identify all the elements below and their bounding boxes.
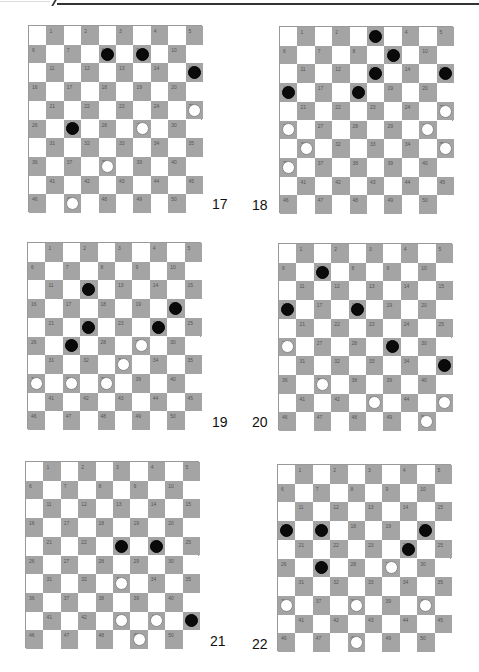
- square-number: 28: [102, 122, 108, 128]
- dark-square: 18: [96, 518, 113, 537]
- dark-square: 32: [81, 138, 98, 157]
- square-number: 6: [281, 486, 284, 492]
- light-square: [382, 615, 399, 634]
- square-number: 29: [387, 123, 393, 129]
- dark-square: 13: [115, 280, 132, 299]
- dark-square: 30: [417, 559, 434, 578]
- dark-square: 21: [296, 319, 313, 338]
- square-number: 14: [153, 282, 159, 288]
- light-square: [81, 45, 98, 64]
- square-number: 11: [298, 504, 303, 510]
- dark-square: 34: [402, 139, 419, 158]
- light-square: [436, 412, 453, 431]
- dark-square: 11: [296, 281, 313, 300]
- square-number: 48: [99, 632, 105, 638]
- dark-square: 20: [419, 83, 436, 102]
- light-square: [383, 244, 400, 263]
- dark-square: 30: [168, 120, 185, 139]
- black-piece: [315, 524, 328, 537]
- light-square: [186, 82, 203, 101]
- light-square: [418, 319, 435, 338]
- dark-square: 49: [133, 194, 150, 213]
- square-number: 18: [99, 520, 105, 526]
- dark-square: 48: [350, 195, 367, 214]
- dark-square: 43: [116, 176, 133, 195]
- square-number: 39: [135, 376, 141, 382]
- light-square: [168, 138, 185, 157]
- dark-square: 39: [132, 374, 149, 393]
- square-number: 45: [438, 617, 444, 623]
- square-number: 14: [405, 66, 411, 72]
- light-square: [400, 559, 417, 578]
- square-number: 8: [351, 486, 354, 492]
- light-square: [418, 244, 435, 263]
- square-number: 44: [403, 617, 409, 623]
- diagram-number: 20: [252, 414, 268, 430]
- diagram-number: 21: [210, 633, 226, 649]
- light-square: [45, 337, 62, 356]
- dark-square: 30: [165, 556, 182, 575]
- light-square: [384, 139, 401, 158]
- black-piece: [352, 86, 365, 99]
- square-number: 8: [101, 264, 104, 270]
- light-square: [313, 615, 330, 634]
- dark-square: 48: [98, 411, 115, 430]
- light-square: [113, 556, 130, 575]
- dark-square: 12: [81, 63, 98, 82]
- light-square: [61, 462, 78, 481]
- dark-square: 18: [98, 299, 115, 318]
- square-number: 40: [421, 377, 427, 383]
- square-number: 11: [300, 66, 305, 72]
- square-number: 38: [99, 595, 105, 601]
- square-number: 6: [31, 264, 34, 270]
- light-square: [133, 101, 150, 120]
- dark-square: 25: [435, 540, 452, 559]
- light-square: [29, 176, 46, 195]
- dark-square: 44: [400, 615, 417, 634]
- square-number: 3: [119, 28, 122, 34]
- dark-square: 18: [348, 521, 365, 540]
- light-square: [116, 82, 133, 101]
- white-piece: [100, 377, 113, 390]
- square-number: 24: [154, 103, 160, 109]
- square-number: 1: [48, 245, 51, 251]
- light-square: [435, 596, 452, 615]
- light-square: [167, 280, 184, 299]
- square-number: 41: [298, 617, 304, 623]
- dark-square: 15: [185, 280, 202, 299]
- light-square: [133, 63, 150, 82]
- dark-square: 42: [78, 612, 95, 631]
- light-square: [365, 596, 382, 615]
- light-square: [116, 157, 133, 176]
- dark-square: 21: [46, 101, 63, 120]
- square-number: 3: [118, 245, 121, 251]
- dark-square: 25: [185, 318, 202, 337]
- light-square: [279, 281, 296, 300]
- light-square: [46, 45, 63, 64]
- dark-square: 23: [366, 319, 383, 338]
- white-piece: [133, 633, 146, 646]
- square-number: 10: [421, 265, 427, 271]
- light-square: [165, 499, 182, 518]
- dark-square: 1: [295, 465, 312, 484]
- dark-square: 21: [295, 540, 312, 559]
- dark-square: 27: [315, 121, 332, 140]
- square-number: 13: [119, 65, 125, 71]
- square-number: 2: [334, 246, 337, 252]
- light-square: [183, 556, 200, 575]
- header-fade: [0, 1, 50, 2]
- light-square: [280, 27, 297, 46]
- dark-square: 39: [133, 157, 150, 176]
- white-piece: [135, 339, 148, 352]
- light-square: [43, 630, 60, 649]
- light-square: [115, 262, 132, 281]
- light-square: [28, 393, 45, 412]
- black-piece: [386, 340, 399, 353]
- square-number: 10: [420, 486, 426, 492]
- light-square: [417, 502, 434, 521]
- diagram-number: 22: [252, 636, 268, 652]
- light-square: [314, 281, 331, 300]
- square-number: 14: [151, 501, 157, 507]
- light-square: [80, 374, 97, 393]
- diagram-number: 19: [212, 414, 228, 430]
